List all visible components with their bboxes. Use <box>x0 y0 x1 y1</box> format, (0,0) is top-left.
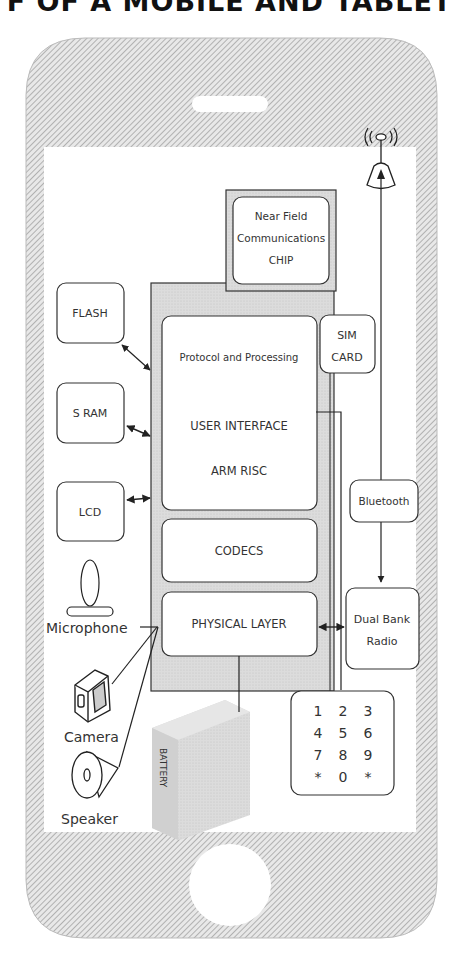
keypad-key: 3 <box>364 703 373 719</box>
battery-label: BATTERY <box>158 748 168 788</box>
keypad-key: 8 <box>339 747 348 763</box>
keypad-key: 0 <box>339 769 348 785</box>
user-interface-label: USER INTERFACE <box>190 419 287 433</box>
microphone-label: Microphone <box>46 620 128 636</box>
bluetooth-block: Bluetooth <box>350 480 418 522</box>
keypad-key: 7 <box>314 747 323 763</box>
keypad-key: 2 <box>339 703 348 719</box>
keypad: 123456789*0* <box>291 691 394 795</box>
nfc-label-line1: Near Field <box>255 210 308 222</box>
radio-block: Dual Bank Radio <box>346 588 419 669</box>
codecs-block: CODECS <box>162 519 317 582</box>
flash-label: FLASH <box>72 307 108 320</box>
lcd-label: LCD <box>79 506 101 519</box>
sram-label: S RAM <box>73 407 108 420</box>
protocol-label: Protocol and Processing <box>180 352 299 363</box>
physical-layer-block: PHYSICAL LAYER <box>162 592 317 656</box>
codecs-label: CODECS <box>215 544 264 558</box>
sram-block: S RAM <box>57 383 124 443</box>
sim-label-line1: SIM <box>337 329 357 342</box>
physical-layer-label: PHYSICAL LAYER <box>191 617 286 631</box>
earpiece-slot-icon <box>192 96 268 112</box>
keypad-key: * <box>315 769 322 785</box>
keypad-key: 1 <box>314 703 323 719</box>
nfc-chip-block: Near Field Communications CHIP <box>226 190 336 291</box>
radio-label-line1: Dual Bank <box>354 613 411 626</box>
sim-label-line2: CARD <box>331 351 362 364</box>
keypad-key: * <box>365 769 372 785</box>
keypad-key: 9 <box>364 747 373 763</box>
keypad-key: 4 <box>314 725 323 741</box>
sim-card-block: SIM CARD <box>320 315 375 373</box>
keypad-key: 5 <box>339 725 348 741</box>
lcd-block: LCD <box>57 482 124 541</box>
home-button-icon[interactable] <box>189 844 271 926</box>
keypad-key: 6 <box>364 725 373 741</box>
bluetooth-label: Bluetooth <box>359 495 410 507</box>
mobile-architecture-diagram: Near Field Communications CHIP Protocol … <box>0 0 459 968</box>
camera-label: Camera <box>64 729 119 745</box>
arm-risc-label: ARM RISC <box>211 464 267 478</box>
speaker-label: Speaker <box>61 811 118 827</box>
protocol-processing-block: Protocol and Processing USER INTERFACE A… <box>162 316 317 510</box>
nfc-label-line3: CHIP <box>269 254 294 266</box>
flash-block: FLASH <box>57 283 124 343</box>
nfc-label-line2: Communications <box>237 232 325 244</box>
radio-label-line2: Radio <box>367 635 398 648</box>
